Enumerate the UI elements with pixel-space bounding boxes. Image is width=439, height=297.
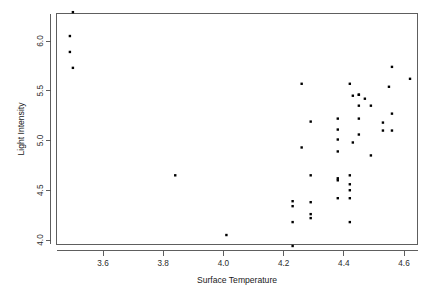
- data-point: [391, 66, 393, 68]
- data-point: [349, 221, 351, 223]
- scatter-plot-figure: 3.63.84.04.24.44.6 4.04.55.05.56.0 Surfa…: [0, 0, 439, 297]
- data-point: [291, 245, 293, 247]
- data-point: [72, 11, 74, 13]
- data-point: [364, 98, 366, 100]
- data-point: [174, 174, 176, 176]
- y-tick-label: 6.0: [36, 35, 45, 47]
- y-tick-label: 5.5: [36, 85, 45, 97]
- data-point: [337, 197, 339, 199]
- data-point: [391, 129, 393, 131]
- data-point: [358, 117, 360, 119]
- data-point: [349, 83, 351, 85]
- data-point: [358, 94, 360, 96]
- x-tick-label: 3.6: [97, 259, 109, 268]
- data-point: [300, 83, 302, 85]
- data-point: [349, 189, 351, 191]
- data-point: [370, 104, 372, 106]
- data-point: [349, 174, 351, 176]
- data-point: [291, 221, 293, 223]
- x-tick-label: 4.6: [398, 259, 410, 268]
- data-point: [69, 35, 71, 37]
- y-axis-label: Light Intensity: [16, 102, 26, 156]
- data-point: [358, 104, 360, 106]
- y-tick-label: 4.5: [36, 184, 45, 196]
- data-point: [309, 201, 311, 203]
- data-point: [382, 129, 384, 131]
- data-point: [337, 138, 339, 140]
- y-tick-label: 5.0: [36, 134, 45, 146]
- data-point: [349, 197, 351, 199]
- data-point: [309, 120, 311, 122]
- x-tick-label: 4.2: [278, 259, 290, 268]
- data-point: [358, 133, 360, 135]
- data-point: [391, 112, 393, 114]
- data-point: [337, 150, 339, 152]
- data-point: [309, 174, 311, 176]
- data-point: [69, 51, 71, 53]
- data-point: [291, 205, 293, 207]
- data-point: [370, 154, 372, 156]
- data-point: [309, 217, 311, 219]
- data-point: [352, 141, 354, 143]
- x-tick-label: 3.8: [158, 259, 170, 268]
- data-point: [72, 67, 74, 69]
- x-tick-label: 4.4: [338, 259, 350, 268]
- data-point: [382, 121, 384, 123]
- data-point: [300, 146, 302, 148]
- data-point: [291, 200, 293, 202]
- data-point: [309, 213, 311, 215]
- data-point: [225, 234, 227, 236]
- data-point: [337, 128, 339, 130]
- data-point: [409, 78, 411, 80]
- data-point: [337, 179, 339, 181]
- plot-background: [0, 0, 439, 297]
- data-point: [388, 86, 390, 88]
- plot-canvas: 3.63.84.04.24.44.6 4.04.55.05.56.0 Surfa…: [0, 0, 439, 297]
- data-point: [352, 95, 354, 97]
- data-point: [337, 117, 339, 119]
- x-axis-label: Surface Temperature: [197, 275, 277, 285]
- data-point: [349, 183, 351, 185]
- x-tick-label: 4.0: [218, 259, 230, 268]
- y-tick-label: 4.0: [36, 234, 45, 246]
